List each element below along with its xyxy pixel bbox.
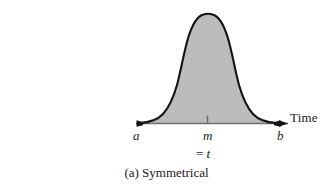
distribution-curve-area: [140, 14, 277, 123]
distribution-chart: [0, 0, 333, 186]
variable-t: t: [207, 146, 211, 161]
equals-sign: =: [196, 146, 207, 161]
endpoint-marker-b: [274, 120, 281, 127]
figure-symmetrical-distribution: Time a m b = t (a) Symmetrical: [0, 0, 333, 186]
endpoint-marker-a: [137, 120, 144, 127]
tick-label-m: m: [203, 129, 212, 142]
tick-label-a: a: [133, 129, 140, 142]
figure-caption: (a) Symmetrical: [0, 166, 333, 179]
tick-label-b: b: [277, 129, 284, 142]
equals-t-annotation: = t: [196, 147, 210, 160]
x-axis-label-time: Time: [290, 111, 318, 124]
